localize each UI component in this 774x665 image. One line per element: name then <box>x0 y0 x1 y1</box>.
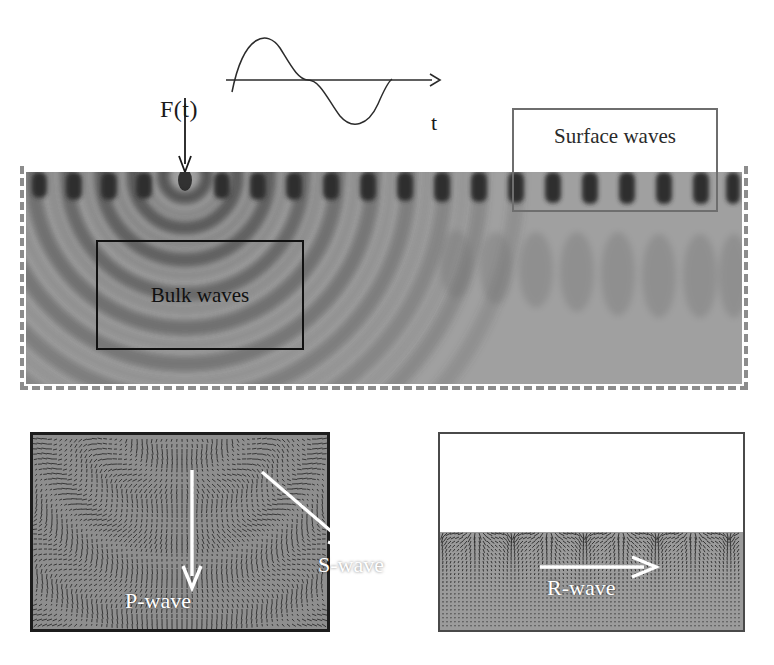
s-wave-label: S-wave <box>318 552 384 578</box>
s-wave-arrow <box>258 468 368 563</box>
sine-curve <box>232 38 392 124</box>
p-wave-arrow <box>178 470 208 595</box>
bulk-waves-label: Bulk waves <box>151 283 250 308</box>
figure-root: F(t) t <box>0 0 774 665</box>
source-pointer-arrow <box>170 98 210 180</box>
surface-waves-annotation-box: Surface waves <box>512 108 718 212</box>
bulk-waves-annotation-box: Bulk waves <box>96 240 304 350</box>
time-axis-label: t <box>431 110 437 136</box>
r-wave-label: R-wave <box>547 575 615 601</box>
surface-wave-detail-panel <box>438 432 745 632</box>
p-wave-label: P-wave <box>125 588 191 614</box>
surface-waves-label: Surface waves <box>554 124 676 149</box>
